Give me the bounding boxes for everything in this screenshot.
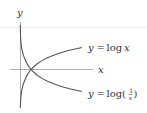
curve-log-inverse-x (20, 25, 82, 92)
svg-text:x: x (129, 94, 133, 101)
svg-text:=: = (97, 42, 105, 53)
svg-text:log(: log( (107, 88, 127, 99)
svg-text:=: = (97, 88, 105, 99)
svg-text:y: y (87, 42, 94, 53)
svg-text:): ) (134, 88, 138, 99)
svg-text:x: x (124, 42, 130, 53)
svg-text:log: log (107, 42, 123, 53)
curve-log-x (20, 48, 82, 109)
log-graph: y x y = log x y = log( 1 x ) (0, 0, 147, 113)
y-axis-label: y (16, 7, 23, 18)
label-log-x: y = log x (87, 42, 130, 53)
svg-text:1: 1 (129, 87, 133, 94)
svg-text:y: y (87, 88, 94, 99)
x-axis-label: x (98, 64, 104, 75)
label-log-inverse-x: y = log( 1 x ) (87, 87, 138, 101)
